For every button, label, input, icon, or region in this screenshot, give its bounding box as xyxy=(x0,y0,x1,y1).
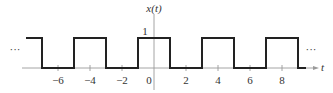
x-axis-label: t xyxy=(321,61,325,73)
y-axis-label: x(t) xyxy=(145,2,162,15)
ticks: −6−4−2024681 xyxy=(52,25,285,86)
x-tick-label: 0 xyxy=(146,74,152,86)
x-tick-label: 2 xyxy=(183,74,189,86)
square-wave-plot: −6−4−2024681 x(t) t ··· ··· xyxy=(0,0,333,93)
y-tick-label: 1 xyxy=(142,25,148,37)
x-axis-arrow-icon xyxy=(313,66,319,70)
left-ellipsis: ··· xyxy=(10,43,21,55)
wave-layer xyxy=(26,38,306,68)
x-tick-label: −2 xyxy=(116,74,128,86)
x-tick-label: −4 xyxy=(84,74,96,86)
right-ellipsis: ··· xyxy=(306,43,317,55)
x-tick-label: 8 xyxy=(279,74,285,86)
x-tick-label: 4 xyxy=(215,74,221,86)
series-line-xt xyxy=(26,38,306,68)
x-tick-label: 6 xyxy=(247,74,253,86)
x-tick-label: −6 xyxy=(52,74,64,86)
